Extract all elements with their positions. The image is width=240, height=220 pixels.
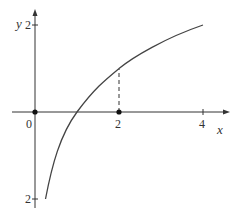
- point-x2: [116, 109, 121, 114]
- chart-canvas: y 2 2 0 2 4 x: [0, 0, 240, 220]
- x-axis-arrow-icon: [223, 110, 230, 115]
- y-axis-arrow-icon: [33, 9, 38, 16]
- x-tick-label-2: 2: [115, 117, 121, 131]
- y-tick-label-neg2: 2: [25, 192, 31, 206]
- y-axis-label: y: [14, 16, 22, 31]
- origin-point: [32, 109, 37, 114]
- y-tick-label-2: 2: [25, 18, 31, 32]
- x-tick-label-4: 4: [199, 117, 205, 131]
- x-axis-label: x: [216, 122, 223, 137]
- origin-label: 0: [26, 117, 32, 131]
